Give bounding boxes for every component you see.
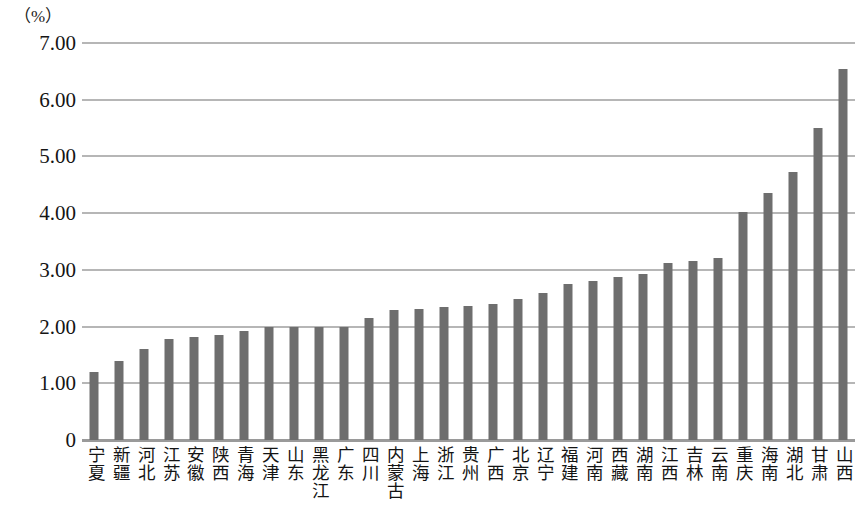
x-axis-tick-label: 甘肃 bbox=[809, 446, 827, 482]
bar-slot bbox=[556, 43, 581, 440]
bar-slot bbox=[232, 43, 257, 440]
x-axis-tick-label: 西藏 bbox=[609, 446, 627, 482]
x-axis-label-slot: 陕西 bbox=[207, 446, 232, 532]
x-axis-tick-label: 江西 bbox=[659, 446, 677, 482]
x-axis-tick-label: 广西 bbox=[485, 446, 503, 482]
bar-slot bbox=[107, 43, 132, 440]
x-axis-label-slot: 山西 bbox=[830, 446, 855, 532]
x-axis-label-slot: 湖南 bbox=[631, 446, 656, 532]
bar bbox=[289, 327, 298, 440]
bar-slot bbox=[356, 43, 381, 440]
bar bbox=[514, 299, 523, 440]
x-axis-tick-label: 云南 bbox=[709, 446, 727, 482]
bar bbox=[215, 335, 224, 440]
x-axis-label-slot: 辽宁 bbox=[531, 446, 556, 532]
bar-slot bbox=[680, 43, 705, 440]
x-axis-tick-label: 重庆 bbox=[734, 446, 752, 482]
x-axis-tick-label: 福建 bbox=[559, 446, 577, 482]
x-axis-tick-label: 安徽 bbox=[185, 446, 203, 482]
bar bbox=[663, 263, 672, 440]
bar bbox=[364, 318, 373, 441]
bar-slot bbox=[780, 43, 805, 440]
bar-slot bbox=[406, 43, 431, 440]
x-axis-label-slot: 江西 bbox=[656, 446, 681, 532]
x-axis-label-slot: 青海 bbox=[232, 446, 257, 532]
x-axis-tick-label: 贵州 bbox=[460, 446, 478, 482]
bar-slot bbox=[207, 43, 232, 440]
bar bbox=[339, 327, 348, 440]
x-axis-tick-label: 上海 bbox=[410, 446, 428, 482]
bar bbox=[639, 274, 648, 440]
chart-page: （%） 7.006.005.004.003.002.001.000 宁夏新疆河北… bbox=[0, 0, 865, 532]
x-axis-tick-label: 湖南 bbox=[634, 446, 652, 482]
bar bbox=[414, 309, 423, 440]
y-axis-tick-label: 0 bbox=[10, 428, 76, 453]
x-axis-tick-label: 青海 bbox=[235, 446, 253, 482]
x-axis-tick-label: 湖北 bbox=[784, 446, 802, 482]
x-axis-tick-label: 天津 bbox=[260, 446, 278, 482]
bar bbox=[738, 212, 747, 440]
bar bbox=[539, 293, 548, 440]
x-axis-label-slot: 浙江 bbox=[431, 446, 456, 532]
x-axis-label-slot: 湖北 bbox=[780, 446, 805, 532]
bar-slot bbox=[132, 43, 157, 440]
bar bbox=[439, 307, 448, 440]
x-axis-label-slot: 新疆 bbox=[107, 446, 132, 532]
bar-slot bbox=[531, 43, 556, 440]
bar bbox=[464, 306, 473, 440]
x-axis-tick-label: 河南 bbox=[584, 446, 602, 482]
bar bbox=[265, 327, 274, 440]
bar-slot bbox=[257, 43, 282, 440]
bar-slot bbox=[755, 43, 780, 440]
bar bbox=[589, 281, 598, 440]
bar-slot bbox=[331, 43, 356, 440]
bar-slot bbox=[481, 43, 506, 440]
bar-slot bbox=[157, 43, 182, 440]
bar-slot bbox=[431, 43, 456, 440]
bar-slot bbox=[805, 43, 830, 440]
x-axis-label-slot: 上海 bbox=[406, 446, 431, 532]
bar bbox=[713, 258, 722, 440]
y-axis-tick-label: 2.00 bbox=[10, 314, 76, 339]
x-axis-tick-label: 新疆 bbox=[111, 446, 129, 482]
bar bbox=[190, 337, 199, 440]
x-axis-label-slot: 海南 bbox=[755, 446, 780, 532]
x-axis-label-slot: 甘肃 bbox=[805, 446, 830, 532]
x-axis-tick-label: 江苏 bbox=[161, 446, 179, 482]
y-axis-tick-label: 4.00 bbox=[10, 201, 76, 226]
bar-slot bbox=[631, 43, 656, 440]
x-axis-label-slot: 河北 bbox=[132, 446, 157, 532]
bar bbox=[240, 331, 249, 440]
x-axis-category-labels: 宁夏新疆河北江苏安徽陕西青海天津山东黑龙江广东四川内蒙古上海浙江贵州广西北京辽宁… bbox=[82, 446, 855, 532]
y-axis-tick-label: 5.00 bbox=[10, 144, 76, 169]
bar-slot bbox=[182, 43, 207, 440]
plot-area bbox=[82, 43, 855, 440]
bar-slot bbox=[381, 43, 406, 440]
x-axis-label-slot: 黑龙江 bbox=[306, 446, 331, 532]
x-axis-tick-label: 山东 bbox=[285, 446, 303, 482]
bar bbox=[314, 327, 323, 440]
x-axis-label-slot: 江苏 bbox=[157, 446, 182, 532]
bar bbox=[489, 304, 498, 440]
bar bbox=[90, 372, 99, 440]
bar bbox=[614, 277, 623, 440]
x-axis-tick-label: 吉林 bbox=[684, 446, 702, 482]
x-axis-label-slot: 广东 bbox=[331, 446, 356, 532]
bar bbox=[165, 339, 174, 440]
bar-slot bbox=[306, 43, 331, 440]
bar-slot bbox=[456, 43, 481, 440]
x-axis-label-slot: 贵州 bbox=[456, 446, 481, 532]
y-axis-tick-label: 1.00 bbox=[10, 371, 76, 396]
bar-slot bbox=[705, 43, 730, 440]
x-axis-label-slot: 福建 bbox=[556, 446, 581, 532]
x-axis-tick-label: 四川 bbox=[360, 446, 378, 482]
x-axis-label-slot: 四川 bbox=[356, 446, 381, 532]
x-axis-label-slot: 吉林 bbox=[680, 446, 705, 532]
bar bbox=[838, 69, 847, 440]
bar bbox=[788, 172, 797, 440]
x-axis-label-slot: 云南 bbox=[705, 446, 730, 532]
bar-slot bbox=[82, 43, 107, 440]
x-axis-label-slot: 宁夏 bbox=[82, 446, 107, 532]
x-axis-tick-label: 黑龙江 bbox=[310, 446, 328, 500]
y-axis-tick-labels: 7.006.005.004.003.002.001.000 bbox=[0, 0, 76, 532]
